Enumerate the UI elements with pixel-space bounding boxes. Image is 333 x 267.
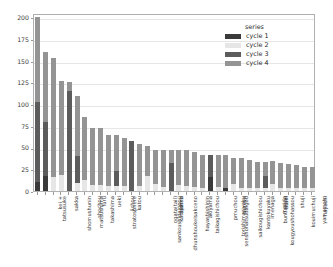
- y-tick-label: 175: [3, 37, 29, 43]
- bar-segment: [255, 188, 260, 191]
- bar-segment: [169, 163, 174, 191]
- bar-segment: [35, 102, 40, 183]
- bar-segment: [90, 128, 95, 184]
- bar-stack: [82, 13, 87, 191]
- x-tick-label: tamiya: [242, 196, 247, 214]
- legend-label: cycle 2: [246, 42, 269, 48]
- x-tick-mark: [131, 192, 132, 195]
- bar-stack: [35, 13, 40, 191]
- x-tick-mark: [45, 192, 46, 195]
- x-tick-label: shomushunin: [87, 196, 92, 231]
- bar-segment: [286, 188, 291, 191]
- x-tick-mark: [295, 192, 296, 195]
- y-tick-label: 125: [3, 80, 29, 86]
- x-tick-label: tashiro: [179, 196, 184, 214]
- legend-swatch: [225, 43, 241, 48]
- x-tick-mark: [225, 192, 226, 195]
- bar-segment: [192, 152, 197, 187]
- bar-segment: [310, 167, 315, 189]
- bar-segment: [270, 184, 275, 191]
- x-tick-label: dhunshoukeisakceno: [193, 196, 198, 250]
- bar-stack: [161, 13, 166, 191]
- x-tick-mark: [256, 192, 257, 195]
- bar-segment: [263, 162, 268, 177]
- y-tick-label: 200: [3, 15, 29, 21]
- bar-segment: [239, 188, 244, 191]
- bar-segment: [43, 176, 48, 191]
- x-tick-mark: [147, 192, 148, 195]
- legend-entries: cycle 1cycle 2cycle 3cycle 4: [225, 33, 269, 66]
- y-tick-label: 0: [3, 189, 29, 195]
- legend-title: series: [245, 24, 269, 30]
- bar-stack: [200, 13, 205, 191]
- bar-stack: [310, 13, 315, 191]
- bar-stack: [286, 13, 291, 191]
- bar-stack: [59, 13, 64, 191]
- bar-segment: [122, 138, 127, 186]
- bar-segment: [302, 188, 307, 191]
- bar-segment: [114, 171, 119, 186]
- x-tick-label: takashima: [110, 196, 115, 223]
- bar-segment: [59, 81, 64, 176]
- bar-stack: [176, 13, 181, 191]
- bar-segment: [106, 186, 111, 191]
- bar-segment: [59, 175, 64, 191]
- legend-label: cycle 4: [246, 60, 269, 66]
- x-tick-label: pmuchou: [233, 196, 238, 220]
- x-tick-label: imenaga: [270, 196, 275, 219]
- bar-segment: [176, 150, 181, 185]
- y-tick-label: 100: [3, 102, 29, 108]
- x-tick-mark: [209, 192, 210, 195]
- bar-segment: [129, 141, 134, 191]
- x-tick-label: akiyama: [207, 196, 212, 218]
- bar-stack: [278, 13, 283, 191]
- bar-segment: [43, 52, 48, 121]
- x-tick-label: saikougishichou: [258, 196, 263, 237]
- y-tick-label: 50: [3, 145, 29, 151]
- x-tick-mark: [162, 192, 163, 195]
- x-tick-mark: [311, 192, 312, 195]
- bar-segment: [122, 186, 127, 191]
- bar-stack: [208, 13, 213, 191]
- bar-segment: [90, 185, 95, 191]
- bar-stack: [169, 13, 174, 191]
- bar-stack: [137, 13, 142, 191]
- x-tick-label: araki: [284, 196, 289, 209]
- bar-stack: [67, 13, 72, 191]
- bar-segment: [294, 188, 299, 191]
- bar-segment: [75, 96, 80, 157]
- bar-stack: [184, 13, 189, 191]
- bar-segment: [153, 150, 158, 184]
- x-tick-mark: [115, 192, 116, 195]
- x-tick-mark: [217, 192, 218, 195]
- bar-segment: [153, 184, 158, 191]
- bar-segment: [51, 177, 56, 191]
- bar-segment: [161, 150, 166, 186]
- plot-area: [33, 14, 315, 192]
- x-tick-mark: [241, 192, 242, 195]
- bar-stack: [90, 13, 95, 191]
- bar-segment: [286, 164, 291, 188]
- bar-stack: [145, 13, 150, 191]
- legend-entry: cycle 3: [225, 51, 269, 57]
- x-tick-mark: [178, 192, 179, 195]
- bar-segment: [137, 186, 142, 191]
- bar-segment: [161, 187, 166, 191]
- bar-segment: [184, 150, 189, 186]
- x-tick-label: kei +: [58, 196, 63, 209]
- x-tick-label: jichou: [130, 196, 135, 211]
- bar-segment: [106, 135, 111, 185]
- x-tick-mark: [272, 192, 273, 195]
- bar-segment: [192, 187, 197, 191]
- bar-segment: [169, 150, 174, 163]
- bar-stack: [302, 13, 307, 191]
- bar-stack: [43, 13, 48, 191]
- x-tick-mark: [60, 192, 61, 195]
- bar-stack: [153, 13, 158, 191]
- bar-segment: [67, 91, 72, 191]
- bar-segment: [216, 187, 221, 191]
- bar-segment: [255, 162, 260, 189]
- bar-stack: [75, 13, 80, 191]
- bar-segment: [145, 146, 150, 176]
- x-tick-mark: [280, 192, 281, 195]
